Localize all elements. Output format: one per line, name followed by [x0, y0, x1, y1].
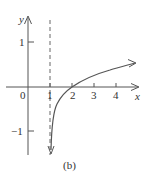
- function-curve: [51, 63, 135, 150]
- y-tick-label-neg1: −1: [11, 126, 23, 137]
- origin-label: 0: [20, 90, 26, 101]
- graph: [0, 0, 147, 175]
- x-tick-label-4: 4: [113, 90, 119, 101]
- x-tick-label-1: 1: [47, 90, 53, 101]
- x-tick-label-2: 2: [70, 90, 76, 101]
- x-tick-label-3: 3: [91, 90, 97, 101]
- y-tick-label-1: 1: [19, 37, 25, 48]
- caption: (b): [63, 160, 76, 171]
- x-ticks: [50, 83, 116, 87]
- y-axis-label: y: [19, 14, 24, 25]
- x-axis-label: x: [135, 91, 140, 102]
